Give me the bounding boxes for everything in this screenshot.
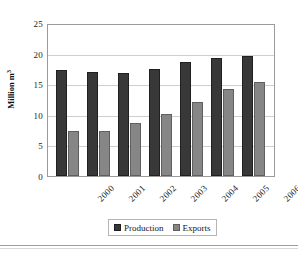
y-axis-title-superscript: 3 (6, 70, 12, 73)
y-tick-label: 0 (38, 172, 43, 182)
legend-swatch-icon (114, 224, 121, 231)
legend-label: Exports (183, 223, 211, 233)
bar-production (242, 56, 253, 176)
bar-exports (223, 89, 234, 176)
legend-label: Production (124, 223, 164, 233)
legend-item-exports: Exports (173, 223, 211, 233)
bar-group (149, 25, 174, 176)
y-tick-label: 25 (34, 19, 43, 29)
y-tick-label: 5 (38, 141, 43, 151)
bar-group (87, 25, 112, 176)
x-tick-label: 2001 (127, 183, 148, 204)
bar-exports (68, 131, 79, 176)
bar-group (118, 25, 143, 176)
y-axis-title-text: Million m (6, 73, 16, 109)
bar-production (180, 62, 191, 176)
x-tick-label: 2003 (189, 183, 210, 204)
bar-exports (254, 82, 265, 176)
y-tick-label: 20 (34, 50, 43, 60)
bar-production (118, 73, 129, 176)
legend-swatch-icon (173, 224, 180, 231)
bar-production (56, 70, 67, 176)
y-axis: 25 20 15 10 5 0 (24, 24, 45, 177)
chart-figure: 25 20 15 10 5 0 Million m3 (0, 0, 298, 255)
bar-group (56, 25, 81, 176)
footer-divider (0, 245, 298, 246)
x-tick-label: 2004 (220, 183, 241, 204)
x-tick-label: 2005 (251, 183, 272, 204)
y-axis-title: Million m3 (6, 56, 17, 122)
bar-production (87, 72, 98, 176)
x-tick-label: 2000 (96, 183, 117, 204)
bar-exports (161, 114, 172, 176)
bar-group (242, 25, 267, 176)
y-tick-label: 15 (34, 80, 43, 90)
bar-production (149, 69, 160, 177)
x-axis: 2000 2001 2002 2003 2004 2005 2006 (47, 177, 275, 217)
legend-item-production: Production (114, 223, 164, 233)
bar-production (211, 58, 222, 176)
bar-exports (192, 102, 203, 176)
y-tick-label: 10 (34, 111, 43, 121)
chart-legend: Production Exports (108, 219, 217, 236)
plot-area (47, 24, 275, 177)
x-tick-label: 2006 (282, 183, 298, 204)
bar-exports (130, 123, 141, 176)
x-tick-label: 2002 (158, 183, 179, 204)
footer-divider-secondary (0, 248, 298, 249)
bar-group (211, 25, 236, 176)
bar-group (180, 25, 205, 176)
bar-exports (99, 131, 110, 176)
